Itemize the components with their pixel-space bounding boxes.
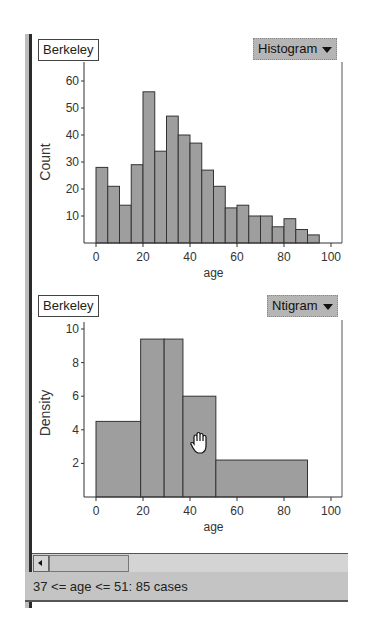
y-axis-label: Density: [37, 390, 53, 437]
histogram-bar[interactable]: [96, 167, 108, 243]
y-tick-label: 40: [66, 128, 80, 142]
y-tick-label: 30: [66, 155, 80, 169]
status-text: 37 <= age <= 51: 85 cases: [33, 579, 188, 594]
plot-type-menu-bottom[interactable]: Ntigram: [267, 295, 338, 317]
plot-type-label: Ntigram: [272, 298, 318, 313]
histogram-bar[interactable]: [272, 227, 284, 243]
scroll-left-button[interactable]: [33, 555, 49, 572]
dropdown-arrow-icon: [323, 304, 333, 310]
histogram-bar[interactable]: [308, 235, 320, 243]
status-bar: 37 <= age <= 51: 85 cases: [25, 572, 348, 602]
y-tick-label: 20: [66, 182, 80, 196]
histogram-bar[interactable]: [164, 339, 183, 497]
histogram-bar[interactable]: [120, 205, 132, 243]
x-tick-label: 20: [136, 250, 150, 264]
histogram-bar[interactable]: [155, 151, 167, 243]
plot-type-label: Histogram: [258, 41, 317, 56]
histogram-bar[interactable]: [108, 186, 120, 243]
y-tick-label: 10: [66, 322, 80, 336]
histogram-bar[interactable]: [167, 116, 179, 243]
dropdown-arrow-icon: [322, 47, 332, 53]
histogram-bar[interactable]: [141, 339, 165, 497]
x-tick-label: 0: [93, 504, 100, 518]
histogram-bar[interactable]: [296, 230, 308, 244]
x-tick-label: 80: [277, 504, 291, 518]
y-tick-label: 60: [66, 74, 80, 88]
hand-cursor-icon: [189, 431, 211, 455]
x-tick-label: 60: [230, 504, 244, 518]
histogram-bar[interactable]: [190, 143, 202, 243]
plot-type-menu-top[interactable]: Histogram: [253, 38, 337, 60]
x-tick-label: 20: [136, 504, 150, 518]
x-axis-label: age: [203, 520, 223, 534]
scroll-thumb[interactable]: [49, 555, 129, 572]
x-tick-label: 100: [321, 250, 341, 264]
horizontal-scrollbar[interactable]: [32, 553, 348, 573]
dataset-label-top[interactable]: Berkeley: [38, 39, 99, 61]
plot-panel: 020406080100102030405060ageCount Berkele…: [32, 34, 348, 579]
histogram-bar[interactable]: [202, 170, 214, 243]
x-tick-label: 60: [230, 250, 244, 264]
y-tick-label: 10: [66, 209, 80, 223]
x-tick-label: 80: [277, 250, 291, 264]
histogram-count-chart[interactable]: 020406080100102030405060ageCount: [32, 34, 348, 296]
histogram-bar[interactable]: [96, 421, 141, 497]
histogram-bar[interactable]: [237, 205, 249, 243]
y-tick-label: 4: [72, 423, 79, 437]
y-tick-label: 50: [66, 101, 80, 115]
histogram-bar[interactable]: [225, 208, 237, 243]
histogram-bar[interactable]: [178, 135, 190, 243]
arrow-left-icon: [38, 560, 42, 566]
histogram-bar[interactable]: [216, 460, 308, 497]
histogram-bar[interactable]: [261, 216, 273, 243]
x-tick-label: 100: [321, 504, 341, 518]
y-axis-label: Count: [37, 143, 53, 180]
histogram-bar[interactable]: [249, 216, 261, 243]
histogram-bar[interactable]: [284, 219, 296, 243]
x-axis-label: age: [203, 266, 223, 280]
x-tick-label: 0: [93, 250, 100, 264]
histogram-bar[interactable]: [131, 165, 143, 243]
y-tick-label: 6: [72, 389, 79, 403]
histogram-bar[interactable]: [143, 92, 155, 243]
dataset-label-bottom[interactable]: Berkeley: [38, 295, 99, 317]
y-tick-label: 8: [72, 356, 79, 370]
y-tick-label: 2: [72, 456, 79, 470]
histogram-bar[interactable]: [214, 186, 226, 243]
x-tick-label: 40: [183, 250, 197, 264]
histogram-density-chart[interactable]: 020406080100246810ageDensity: [32, 292, 348, 550]
x-tick-label: 40: [183, 504, 197, 518]
